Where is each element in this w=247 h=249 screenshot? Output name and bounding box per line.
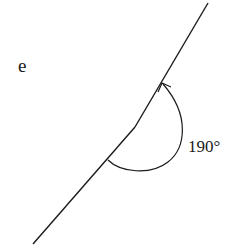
figure-label: e xyxy=(18,55,26,76)
angle-label: 190° xyxy=(188,137,220,156)
angle-diagram: e 190° xyxy=(0,0,247,249)
angle-arc xyxy=(108,84,182,171)
lower-ray xyxy=(33,127,135,244)
upper-ray xyxy=(135,3,208,127)
